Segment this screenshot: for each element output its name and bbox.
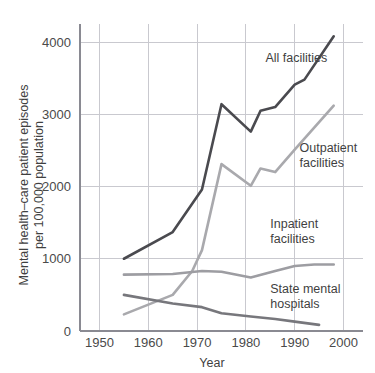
series-annotation-label: Inpatient	[270, 217, 318, 231]
series-annotation-label: Outpatient	[300, 141, 358, 155]
x-tick-label: 1950	[85, 335, 114, 350]
y-tick-label: 2000	[42, 179, 71, 194]
line-chart-canvas: 01000200030004000 1950196019701980199020…	[0, 0, 375, 373]
y-tick-label: 3000	[42, 107, 71, 122]
x-tick-label: 1960	[134, 335, 163, 350]
y-axis-title-line1: Mental health–care patient episodes	[17, 85, 31, 286]
y-tick-label: 0	[64, 324, 71, 339]
series-annotation-label: State mental	[270, 282, 340, 296]
series-annotation-label: facilities	[270, 232, 314, 246]
chart-figure: 01000200030004000 1950196019701980199020…	[0, 0, 375, 373]
series-annotation-label: hospitals	[270, 297, 319, 311]
series-annotation-label: All facilities	[265, 51, 327, 65]
x-tick-label: 1980	[231, 335, 260, 350]
series-annotation-label: facilities	[300, 156, 344, 170]
x-tick-label: 1990	[280, 335, 309, 350]
x-tick-label: 2000	[329, 335, 358, 350]
x-tick-label: 1970	[183, 335, 212, 350]
x-axis-title: Year	[199, 356, 224, 370]
y-tick-label: 1000	[42, 251, 71, 266]
y-tick-label: 4000	[42, 35, 71, 50]
y-axis-title-line2: per 100,000 population	[32, 121, 46, 249]
